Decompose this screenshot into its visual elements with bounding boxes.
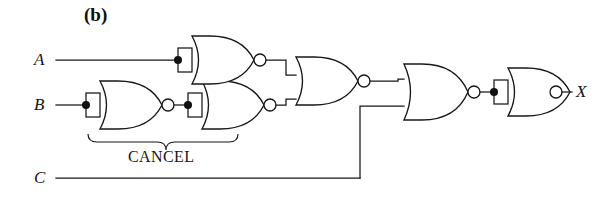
cancel-bracket [88, 134, 238, 150]
bubble-g4 [358, 75, 370, 87]
nor-gate-cancel-second [202, 81, 264, 129]
wire-c-to-g5 [360, 106, 404, 178]
bubble-g1 [254, 54, 266, 66]
wire-g1-to-g4 [266, 60, 296, 75]
wire-g3-to-g4 [276, 99, 296, 105]
circuit-schematic [0, 0, 607, 199]
junction-dot-b [82, 101, 90, 109]
bubble-g2 [162, 99, 174, 111]
bubble-g5 [468, 86, 480, 98]
nor-gate-merge [296, 57, 358, 105]
nor-gate-a-inverter [192, 36, 254, 84]
bubble-g3 [264, 99, 276, 111]
wire-g4-to-g5 [370, 79, 404, 81]
nor-gate-with-c [404, 64, 468, 120]
logic-circuit-figure: (b) A B C X CANCEL [0, 0, 607, 199]
nor-gate-b-inverter [100, 81, 162, 129]
bubble-g6 [550, 86, 562, 98]
